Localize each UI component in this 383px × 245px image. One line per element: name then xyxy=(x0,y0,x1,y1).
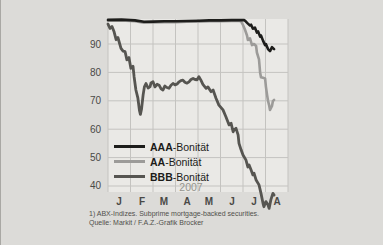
x-axis-tick-label: M xyxy=(154,196,174,207)
x-axis-tick-label: A xyxy=(267,196,287,207)
footnote-block: 1) ABX-Indizes. Subprime mortgage-backed… xyxy=(89,209,369,227)
chart-card: 90 80 70 60 50 40 J F M A M J J A 2007 A… xyxy=(0,0,383,245)
y-axis-tick-label: 80 xyxy=(81,67,101,78)
x-axis-tick-label: J xyxy=(109,196,129,207)
y-axis-tick-label: 90 xyxy=(81,39,101,50)
bbb-line-swatch xyxy=(114,175,145,178)
legend-item-aa: AA-Bonität xyxy=(114,154,244,169)
x-axis-tick-label: A xyxy=(177,196,197,207)
legend-label: BBB-Bonität xyxy=(150,171,209,183)
y-axis-tick-label: 40 xyxy=(81,180,101,191)
source-credit: Quelle: Markit / F.A.Z.-Grafik Brocker xyxy=(89,218,369,227)
x-axis-tick-label: M xyxy=(199,196,219,207)
aa-line-swatch xyxy=(114,160,145,163)
legend-item-aaa: AAA-Bonität xyxy=(114,139,244,154)
x-axis-tick-label: J xyxy=(222,196,242,207)
chart-legend: AAA-Bonität AA-Bonität BBB-Bonität xyxy=(114,139,244,184)
x-axis-tick-label: F xyxy=(132,196,152,207)
y-axis-tick-label: 50 xyxy=(81,152,101,163)
aaa-line-swatch xyxy=(114,145,145,148)
x-axis-tick-label: J xyxy=(244,196,264,207)
footnote: 1) ABX-Indizes. Subprime mortgage-backed… xyxy=(89,209,369,218)
legend-label: AAA-Bonität xyxy=(150,141,209,153)
legend-item-bbb: BBB-Bonität xyxy=(114,169,244,184)
y-axis-tick-label: 70 xyxy=(81,95,101,106)
y-axis-tick-label: 60 xyxy=(81,124,101,135)
legend-label: AA-Bonität xyxy=(150,156,201,168)
